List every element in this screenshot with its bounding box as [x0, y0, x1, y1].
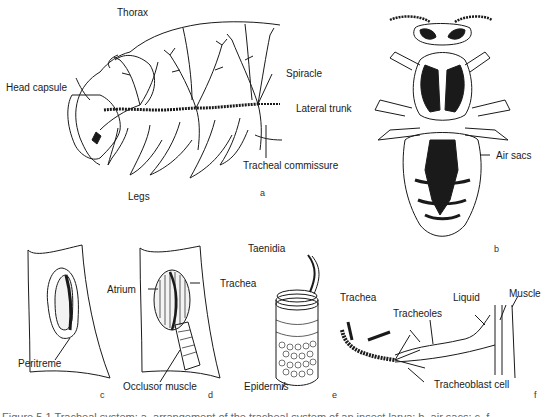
label-muscle: Muscle	[509, 288, 541, 299]
label-tracheal-commissure: Tracheal commissure	[243, 160, 338, 171]
label-liquid: Liquid	[453, 292, 480, 303]
panel-letter-e: e	[332, 390, 337, 400]
label-tracheoblast-cell: Tracheoblast cell	[434, 379, 509, 390]
label-lateral-trunk: Lateral trunk	[296, 103, 352, 114]
label-spiracle: Spiracle	[286, 68, 322, 79]
figure: Thorax Head capsule Spiracle Lateral tru…	[0, 0, 548, 417]
panel-letter-c: c	[100, 390, 105, 400]
label-trachea-d: Trachea	[220, 278, 256, 289]
label-occlusor-muscle: Occlusor muscle	[123, 381, 197, 392]
label-epidermis: Epidermis	[244, 381, 288, 392]
label-legs: Legs	[128, 191, 150, 202]
figure-drawing	[0, 0, 548, 417]
panel-letter-d: d	[208, 390, 213, 400]
label-taenidia: Taenidia	[248, 243, 285, 254]
panel-letter-a: a	[260, 188, 265, 198]
adult-insect-drawing	[375, 16, 510, 236]
larva-drawing	[68, 22, 282, 178]
label-air-sacs: Air sacs	[496, 150, 532, 161]
label-head-capsule: Head capsule	[6, 82, 67, 93]
tracheal-tube-drawing	[276, 255, 319, 390]
label-tracheoles: Tracheoles	[393, 308, 442, 319]
spiracle-cutaway-drawing	[140, 246, 220, 382]
figure-caption: Figure 5.1 Tracheal system: a, arrangeme…	[2, 409, 502, 417]
label-atrium: Atrium	[107, 284, 136, 295]
panel-letter-f: f	[534, 390, 537, 400]
label-thorax: Thorax	[117, 7, 148, 18]
panel-letter-b: b	[494, 244, 499, 254]
label-trachea-f: Trachea	[340, 292, 376, 303]
label-peritreme: Peritreme	[18, 358, 61, 369]
